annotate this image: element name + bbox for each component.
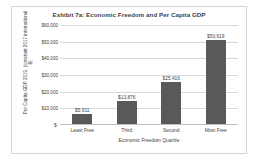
- bar-group: $5,911: [60, 25, 105, 124]
- bar-value-label: $50,619: [207, 34, 224, 39]
- bar-value-label: $5,911: [75, 108, 89, 113]
- y-axis-tick-label: $20,000: [26, 89, 58, 94]
- bar[interactable]: [161, 82, 181, 124]
- bar[interactable]: [117, 101, 137, 124]
- y-axis-tick-label: $30,000: [26, 73, 58, 78]
- bar-group: $50,619: [194, 25, 239, 124]
- x-axis-tick-label: Second: [163, 128, 180, 133]
- bar-group: $13,876: [105, 25, 150, 124]
- bar-value-label: $25,416: [163, 76, 180, 81]
- bar[interactable]: [72, 114, 92, 124]
- y-axis-tick-label: $60,000: [26, 23, 58, 28]
- x-axis-title: Economic Freedom Quartile: [60, 138, 238, 143]
- bar-value-label: $13,876: [118, 95, 135, 100]
- x-axis-tick-label: Third: [121, 128, 132, 133]
- bar-series: $5,911$13,876$25,416$50,619: [60, 25, 238, 124]
- x-axis-line: [60, 124, 238, 125]
- x-axis-tick-label: Least Free: [71, 128, 94, 133]
- x-axis-tick-label: Most Free: [205, 128, 227, 133]
- y-axis-tick-label: $-: [26, 123, 58, 128]
- chart-title: Exhibit 7a: Economic Freedom and Per Cap…: [12, 11, 246, 18]
- plot-area: $5,911$13,876$25,416$50,619: [60, 25, 238, 125]
- y-axis-tick-label: $40,000: [26, 56, 58, 61]
- y-axis-tick-label: $50,000: [26, 39, 58, 44]
- chart-container: Exhibit 7a: Economic Freedom and Per Cap…: [11, 6, 247, 154]
- bar-group: $25,416: [149, 25, 194, 124]
- x-axis-tick-labels: Least FreeThirdSecondMost Free: [60, 128, 238, 138]
- y-axis-tick-labels: $-$10,000$20,000$30,000$40,000$50,000$60…: [22, 25, 58, 125]
- y-axis-tick-label: $10,000: [26, 106, 58, 111]
- bar[interactable]: [206, 40, 226, 124]
